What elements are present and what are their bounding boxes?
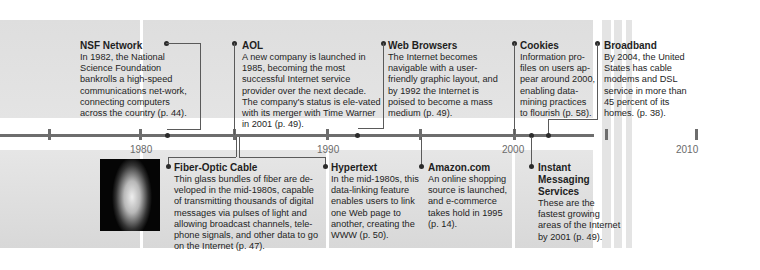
event-amazon: Amazon.com An online shopping source is … [428,162,514,230]
connector-dot [323,164,328,169]
connector-line [383,43,384,128]
connector-dot [166,164,171,169]
event-title: AOL [242,40,382,52]
axis-tick [48,129,51,140]
connector-line [597,43,598,119]
event-body: In 1982, the National Science Foundation… [80,52,187,118]
connector-line [548,119,598,120]
connector-line [514,43,515,135]
connector-dot [419,164,424,169]
event-title: NSF Network [80,40,190,52]
event-body: These are the fastest growing areas of t… [538,198,620,242]
connector-line [168,157,236,158]
event-title: Instant Messaging Services [538,162,622,198]
event-web-browsers: Web Browsers The Internet becomes naviga… [388,40,498,119]
year-label-2010: 2010 [676,144,698,155]
event-title: Cookies [520,40,596,52]
axis-dot [546,133,551,138]
event-body: In the mid-1980s, this data-linking feat… [331,174,419,240]
connector-line [166,43,200,44]
connector-line [167,129,201,130]
axis-tick [605,129,608,140]
connector-line [200,43,201,129]
event-aol: AOL A new company is launched in 1985, b… [242,40,382,130]
event-body: Thin glass bundles of fiber are de-velop… [174,174,318,251]
event-title: Hypertext [331,162,419,174]
connector-line [421,137,422,165]
axis-dot [165,133,170,138]
connector-dot [529,164,534,169]
axis-tick [139,129,142,140]
connector-line [234,43,235,135]
event-body: An online shopping source is launched, a… [428,174,507,229]
event-hypertext: Hypertext In the mid-1980s, this data-li… [331,162,419,241]
event-fiber-optic-cable: Fiber-Optic Cable Thin glass bundles of … [174,162,324,252]
connector-line [236,137,237,157]
event-nsf-network: NSF Network In 1982, the National Scienc… [80,40,190,119]
connector-line [531,137,532,165]
connector-line [239,137,240,157]
event-body: A new company is launched in 1985, becom… [242,52,381,129]
axis-tick [695,129,698,140]
axis-tick [326,129,329,140]
event-body: By 2004, the United States has cable mod… [604,52,687,118]
fiber-optic-photo [100,159,160,231]
connector-line [239,157,325,158]
event-broadband: Broadband By 2004, the United States has… [604,40,688,119]
event-title: Web Browsers [388,40,498,52]
event-title: Amazon.com [428,162,514,174]
event-body: The Internet becomes navigable with a us… [388,52,498,118]
timeline-axis [0,134,594,137]
year-label-2000: 2000 [502,144,524,155]
event-title: Fiber-Optic Cable [174,162,324,174]
event-cookies: Cookies Information pro-files on users a… [520,40,596,119]
event-instant-messaging: Instant Messaging Services These are the… [538,162,622,243]
event-body: Information pro-files on users ap-pear a… [520,52,595,118]
event-title: Broadband [604,40,688,52]
year-label-1980: 1980 [130,144,152,155]
year-label-1990: 1990 [317,144,339,155]
axis-dot [355,133,360,138]
connector-line [358,128,384,129]
